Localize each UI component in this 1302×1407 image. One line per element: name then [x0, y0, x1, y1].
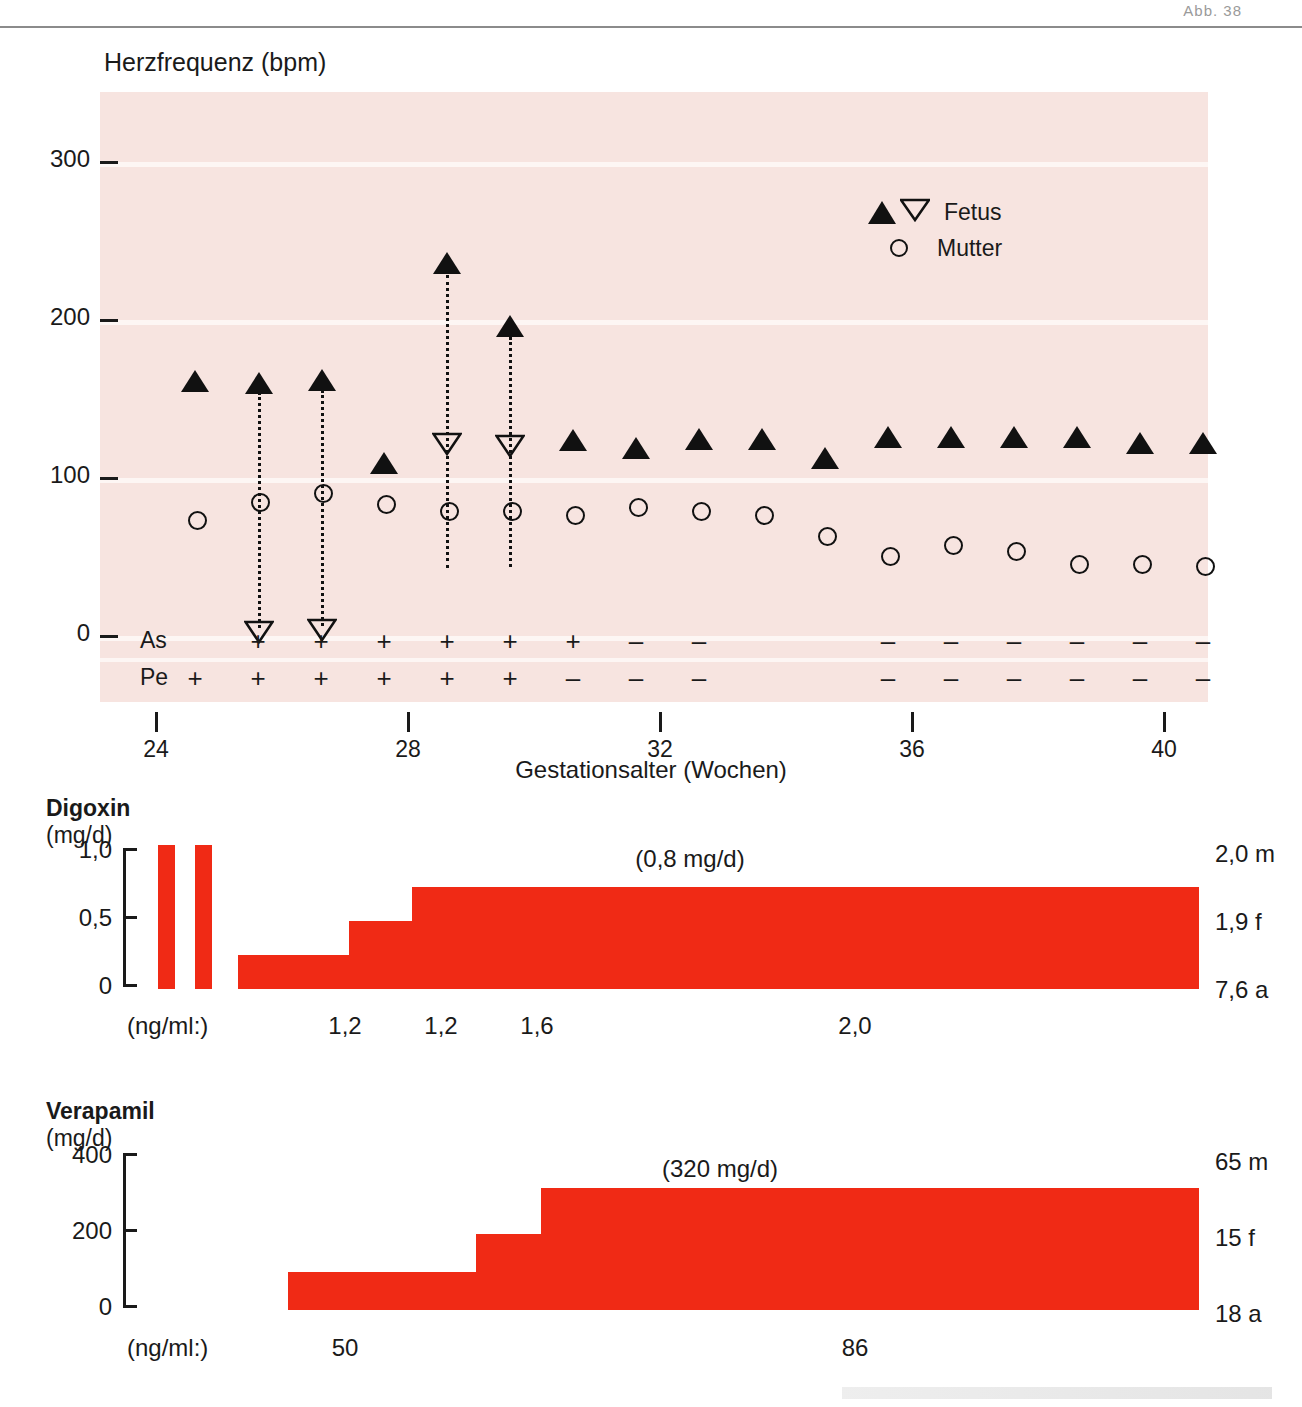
pe-w36: – [938, 665, 964, 691]
mutter-marker-w24 [188, 511, 207, 530]
fetus-marker-w31 [622, 437, 650, 459]
fetus-marker-w39 [1126, 432, 1154, 454]
verapamil-step-200 [476, 1234, 541, 1310]
pe-w35: – [875, 665, 901, 691]
digoxin-bolus-bar-2 [195, 845, 212, 989]
mutter-marker-w31 [629, 498, 648, 517]
verapamil-dose-note: (320 mg/d) [620, 1155, 820, 1183]
digoxin-y-label-0: 0 [22, 972, 112, 1000]
fetus-marker-w38 [1063, 426, 1091, 448]
y-axis-label-300: 300 [10, 145, 90, 173]
footer-artifact [842, 1387, 1272, 1399]
x-axis-tick-28 [407, 712, 410, 732]
fetus-marker-w32 [685, 428, 713, 450]
as-w29: + [497, 628, 523, 654]
verapamil-note-mother: 65 m [1215, 1148, 1268, 1176]
verapamil-axis-cap-top [123, 1153, 137, 1156]
verapamil-note-amnion: 18 a [1215, 1300, 1262, 1328]
pe-w26: + [308, 665, 334, 691]
y-axis-dash-0 [100, 635, 118, 638]
gridline-200 [100, 320, 1208, 325]
digoxin-step-075 [412, 887, 1199, 989]
legend-label-fetus: Fetus [944, 199, 1002, 226]
pe-w38: – [1064, 665, 1090, 691]
pe-w40: – [1190, 665, 1216, 691]
page-header: Abb. 38 [1183, 2, 1242, 19]
as-w35: – [875, 628, 901, 654]
y-axis-label-100: 100 [10, 461, 90, 489]
verapamil-title: Verapamil [46, 1098, 155, 1125]
connector-week-26 [321, 390, 324, 626]
pe-w37: – [1001, 665, 1027, 691]
pe-w24: + [182, 665, 208, 691]
y-axis-label-0: 0 [10, 619, 90, 647]
as-w40: – [1190, 628, 1216, 654]
chart-legend: Fetus Mutter [868, 197, 1002, 263]
fetus-marker-w36 [937, 426, 965, 448]
digoxin-axis-tick-05 [123, 916, 137, 919]
mutter-marker-w27 [377, 495, 396, 514]
gridline-300 [100, 162, 1208, 167]
digoxin-step-025 [238, 955, 349, 989]
verapamil-y-label-200: 200 [22, 1217, 112, 1245]
pe-w30: – [560, 665, 586, 691]
mutter-marker-w36 [944, 536, 963, 555]
fetus-marker-w40 [1189, 432, 1217, 454]
row-label-pe: Pe [140, 664, 168, 691]
legend-label-mutter: Mutter [937, 235, 1002, 262]
header-rule [0, 26, 1302, 28]
gridline-row-separator [100, 658, 1208, 662]
heart-rate-chart-title: Herzfrequenz (bpm) [104, 48, 326, 77]
digoxin-note-amnion: 7,6 a [1215, 976, 1268, 1004]
pe-w29: + [497, 665, 523, 691]
verapamil-conc-label: (ng/ml:) [127, 1334, 208, 1362]
verapamil-y-label-0: 0 [22, 1293, 112, 1321]
pe-w27: + [371, 665, 397, 691]
fetus-marker-w37 [1000, 426, 1028, 448]
mutter-marker-w34 [818, 527, 837, 546]
as-w38: – [1064, 628, 1090, 654]
as-w25: + [245, 628, 271, 654]
as-w28: + [434, 628, 460, 654]
verapamil-conc-1: 50 [300, 1334, 390, 1362]
mutter-marker-w32 [692, 502, 711, 521]
fetus-marker-w33 [748, 428, 776, 450]
legend-item-fetus: Fetus [868, 197, 1002, 227]
digoxin-axis-cap-bottom [123, 984, 137, 987]
x-axis-tick-36 [911, 712, 914, 732]
digoxin-conc-4: 2,0 [810, 1012, 900, 1040]
y-axis-dash-100 [100, 477, 118, 480]
as-w27: + [371, 628, 397, 654]
mutter-marker-w33 [755, 506, 774, 525]
verapamil-step-320 [541, 1188, 1199, 1310]
open-circle-icon [890, 239, 908, 257]
legend-item-mutter: Mutter [868, 233, 1002, 263]
verapamil-axis-tick-200 [123, 1229, 137, 1232]
fetus-marker-w28 [433, 252, 461, 274]
fetus-marker-w35 [874, 426, 902, 448]
as-w30: + [560, 628, 586, 654]
digoxin-conc-label: (ng/ml:) [127, 1012, 208, 1040]
verapamil-axis-cap-bottom [123, 1305, 137, 1308]
y-axis-dash-300 [100, 161, 118, 164]
mutter-marker-w26 [314, 484, 333, 503]
connector-week-28 [446, 275, 449, 568]
pe-w31: – [623, 665, 649, 691]
mutter-marker-w25 [251, 493, 270, 512]
verapamil-conc-2: 86 [810, 1334, 900, 1362]
as-w37: – [1001, 628, 1027, 654]
x-axis-tick-24 [155, 712, 158, 732]
heart-rate-plot-area: Fetus Mutter [100, 92, 1208, 702]
digoxin-dose-note: (0,8 mg/d) [600, 845, 780, 873]
digoxin-note-fetus: 1,9 f [1215, 908, 1262, 936]
fetus-marker-w30 [559, 429, 587, 451]
x-axis-tick-32 [659, 712, 662, 732]
as-w39: – [1127, 628, 1153, 654]
mutter-marker-w29 [503, 502, 522, 521]
filled-up-triangle-icon [868, 201, 896, 224]
fetus-marker-w29 [496, 315, 524, 337]
fetus-marker-w25 [245, 372, 273, 394]
open-down-triangle-icon [900, 198, 930, 226]
mutter-marker-w35 [881, 547, 900, 566]
fetus-marker-w27 [370, 452, 398, 474]
